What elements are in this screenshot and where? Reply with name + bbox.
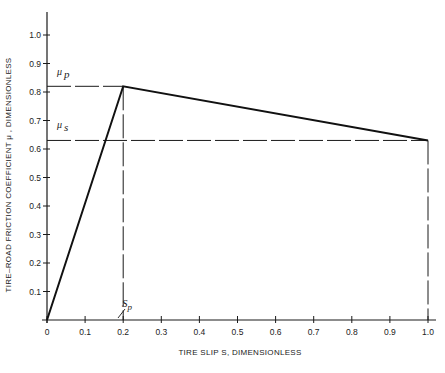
sp-pointer bbox=[118, 309, 125, 318]
x-ticks: 00.10.20.30.40.50.60.70.80.91.0 bbox=[45, 316, 435, 337]
friction-slip-chart: 0.10.20.30.40.50.60.70.80.91.0 00.10.20.… bbox=[0, 0, 445, 373]
x-tick-label: 0.6 bbox=[270, 327, 282, 337]
x-tick-label: 0.8 bbox=[346, 327, 358, 337]
y-tick-label: 0.4 bbox=[29, 201, 41, 211]
x-tick-label: 0.1 bbox=[79, 327, 91, 337]
x-tick-label: 0.3 bbox=[155, 327, 167, 337]
mu-s-label: μs bbox=[56, 119, 68, 133]
y-tick-label: 0.1 bbox=[29, 287, 41, 297]
x-tick-label: 1.0 bbox=[422, 327, 434, 337]
friction-curve bbox=[47, 86, 428, 320]
x-axis-title: TIRE SLIP S, DIMENSIONLESS bbox=[178, 348, 301, 357]
reference-lines bbox=[47, 86, 428, 320]
y-tick-label: 0.6 bbox=[29, 144, 41, 154]
axes bbox=[42, 12, 436, 323]
x-tick-label: 0.5 bbox=[232, 327, 244, 337]
mu-p-label: μp bbox=[56, 66, 70, 80]
y-tick-label: 0.8 bbox=[29, 87, 41, 97]
y-tick-label: 0.2 bbox=[29, 258, 41, 268]
x-tick-label: 0.7 bbox=[308, 327, 320, 337]
y-axis-title: TIRE–ROAD FRICTION COEFFICIENT μ , DIMEN… bbox=[4, 58, 13, 293]
y-tick-label: 1.0 bbox=[29, 30, 41, 40]
y-tick-label: 0.3 bbox=[29, 230, 41, 240]
x-tick-label: 0 bbox=[45, 327, 50, 337]
x-tick-label: 0.2 bbox=[117, 327, 129, 337]
y-tick-label: 0.7 bbox=[29, 116, 41, 126]
x-tick-label: 0.4 bbox=[193, 327, 205, 337]
y-tick-label: 0.5 bbox=[29, 173, 41, 183]
sp-label: Sp bbox=[122, 297, 133, 312]
y-tick-label: 0.9 bbox=[29, 59, 41, 69]
x-tick-label: 0.9 bbox=[384, 327, 396, 337]
